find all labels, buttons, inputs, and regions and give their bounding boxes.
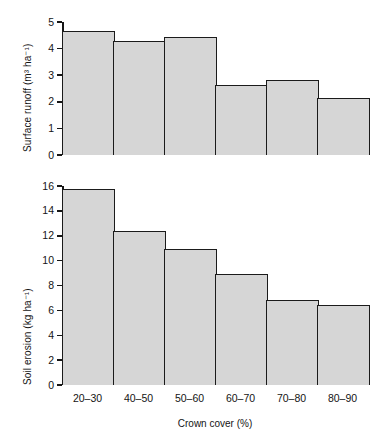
y-axis-tick-label: 1 [48, 123, 54, 134]
bar [215, 85, 268, 155]
plot-area-soil-erosion: 0246810121416 [62, 186, 368, 385]
y-axis-tick-label: 2 [48, 355, 54, 366]
y-axis-tick [57, 210, 62, 212]
y-axis-tick-label: 14 [42, 206, 54, 217]
y-axis-tick-label: 3 [48, 70, 54, 81]
y-axis-tick [57, 285, 62, 287]
y-axis-tick [57, 335, 62, 337]
x-axis-category-label: 50–60 [164, 392, 215, 404]
y-axis-tick-label: 5 [48, 17, 54, 28]
y-axis-tick [57, 154, 62, 156]
bar-group-soil-erosion [62, 186, 368, 385]
y-axis-tick-label: 8 [48, 280, 54, 291]
y-axis-tick-label: 12 [42, 231, 54, 242]
y-axis-tick-label: 16 [42, 181, 54, 192]
y-axis-tick [57, 384, 62, 386]
y-axis-tick-label: 0 [48, 380, 54, 391]
y-axis-tick-label: 4 [48, 330, 54, 341]
y-axis-tick-label: 2 [48, 97, 54, 108]
y-axis-tick [57, 128, 62, 130]
plot-area-surface-runoff: 012345 [62, 22, 368, 155]
panel-surface-runoff: Surface runoff (m³ ha⁻¹) 012345 [0, 0, 385, 170]
y-axis-tick-label: 6 [48, 305, 54, 316]
y-axis-tick [57, 260, 62, 262]
panel-soil-erosion: Soil erosion (kg ha⁻¹) 0246810121416 20–… [0, 170, 385, 447]
y-axis-tick [57, 310, 62, 312]
y-axis-tick [57, 21, 62, 23]
y-axis-tick [57, 235, 62, 237]
x-axis-category-label: 70–80 [266, 392, 317, 404]
y-axis-title-surface-runoff: Surface runoff (m³ ha⁻¹) [22, 44, 33, 152]
bar [317, 98, 370, 155]
bar [164, 249, 217, 385]
y-axis-tick [57, 74, 62, 76]
x-axis-category-label: 60–70 [215, 392, 266, 404]
bar [164, 37, 217, 155]
bar [266, 80, 319, 155]
x-axis-category-label: 20–30 [62, 392, 113, 404]
bar [62, 189, 115, 386]
y-axis-tick-label: 4 [48, 43, 54, 54]
y-axis-title-soil-erosion: Soil erosion (kg ha⁻¹) [22, 288, 33, 385]
y-axis-tick [57, 48, 62, 50]
y-axis-tick [57, 101, 62, 103]
x-axis-title: Crown cover (%) [62, 418, 368, 429]
x-axis-category-label: 80–90 [317, 392, 368, 404]
bar [215, 274, 268, 385]
y-axis-tick [57, 359, 62, 361]
x-axis-category-label: 40–50 [113, 392, 164, 404]
bar [113, 41, 166, 155]
figure-bar-charts: Surface runoff (m³ ha⁻¹) 012345 Soil ero… [0, 0, 385, 447]
y-axis-tick [57, 185, 62, 187]
y-axis-tick-label: 10 [42, 255, 54, 266]
bar [317, 305, 370, 385]
bar [113, 231, 166, 385]
bar [62, 31, 115, 155]
bar [266, 300, 319, 385]
y-axis-tick-label: 0 [48, 150, 54, 161]
x-axis-category-labels: 20–3040–5050–6060–7070–8080–90 [62, 392, 368, 404]
bar-group-surface-runoff [62, 22, 368, 155]
